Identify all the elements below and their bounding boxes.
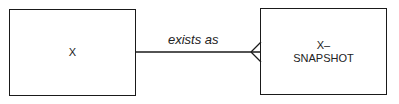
entity-x-snapshot: X– SNAPSHOT [260,8,387,95]
entity-x-snapshot-label-line2: SNAPSHOT [293,52,354,65]
entity-x-snapshot-label-line1: X– [293,39,354,52]
entity-x: X [9,9,136,96]
entity-x-label: X [69,46,76,59]
relationship-label: exists as [168,32,219,47]
